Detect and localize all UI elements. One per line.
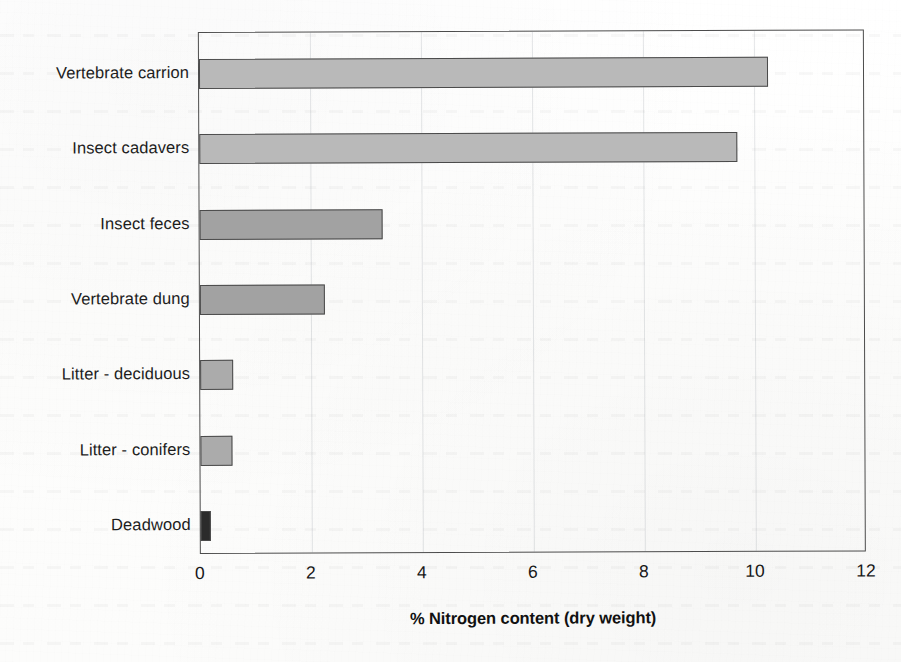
- category-label: Litter - deciduous: [0, 364, 190, 384]
- x-axis-title: % Nitrogen content (dry weight): [200, 607, 866, 629]
- x-tick-label: 0: [195, 563, 205, 584]
- gridline: [643, 31, 646, 551]
- x-tick-label: 12: [856, 560, 876, 581]
- x-tick-label: 4: [417, 562, 427, 583]
- gridline: [421, 32, 424, 552]
- bar: [200, 284, 325, 314]
- bar: [199, 57, 768, 89]
- bar: [200, 209, 383, 240]
- gridline: [754, 31, 757, 551]
- category-label: Deadwood: [1, 515, 191, 535]
- bar-series: [199, 30, 863, 33]
- category-label: Insect cadavers: [0, 138, 189, 158]
- category-label: Vertebrate carrion: [0, 63, 189, 83]
- bar: [201, 511, 211, 541]
- x-tick-label: 2: [306, 563, 316, 584]
- category-label: Litter - conifers: [0, 439, 190, 459]
- gridline: [532, 32, 535, 552]
- gridlines: [199, 30, 863, 33]
- x-tick-label: 8: [639, 561, 649, 582]
- x-tick-label: 6: [528, 562, 538, 583]
- bar: [200, 435, 232, 465]
- bar-chart-figure: Vertebrate carrionInsect cadaversInsect …: [0, 0, 901, 662]
- bar: [200, 360, 233, 390]
- category-label: Vertebrate dung: [0, 289, 190, 309]
- category-label: Insect feces: [0, 214, 190, 234]
- plot-area: [198, 29, 866, 554]
- category-axis-labels: Vertebrate carrionInsect cadaversInsect …: [0, 32, 191, 555]
- x-axis-tick-labels: 024681012: [1, 560, 901, 591]
- x-tick-label: 10: [745, 561, 765, 582]
- bar: [199, 132, 737, 164]
